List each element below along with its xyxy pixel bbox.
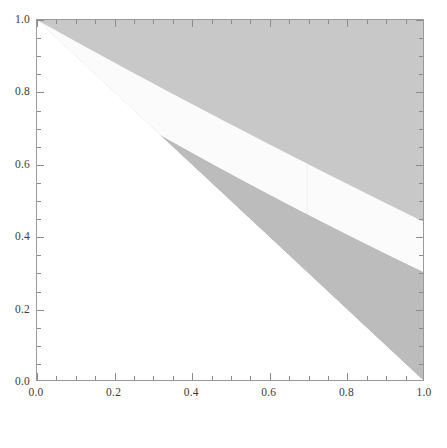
y-tick-right-0.4 <box>416 237 423 238</box>
x-tick-bottom-minor-0.95 <box>406 376 407 380</box>
y-tick-label-0.2: 0.2 <box>0 303 30 315</box>
x-tick-top-0.4 <box>192 20 193 27</box>
x-tick-top-0.1 <box>76 20 77 24</box>
y-tick-right-0.6 <box>416 165 423 166</box>
y-tick-right-minor-0.75 <box>419 111 423 112</box>
x-tick-top-minor-0.45 <box>212 20 213 24</box>
y-tick-left-0.7 <box>37 129 41 130</box>
y-tick-left-minor-0.75 <box>37 111 41 112</box>
x-tick-bottom-minor-0.15 <box>95 376 96 380</box>
y-tick-right-0.2 <box>416 310 423 311</box>
contour-canvas <box>37 20 423 380</box>
y-tick-label-0.8: 0.8 <box>0 85 30 97</box>
x-tick-label-0.8: 0.8 <box>339 386 354 398</box>
contour-figure: 0.00.20.40.60.81.0 0.00.20.40.60.81.0 <box>0 0 447 448</box>
y-tick-right-0.9 <box>419 56 423 57</box>
y-tick-left-minor-0.15 <box>37 328 41 329</box>
y-tick-left-0.5 <box>37 201 41 202</box>
y-tick-left-0.1 <box>37 346 41 347</box>
x-tick-bottom-0.2 <box>115 373 116 380</box>
y-tick-right-0.1 <box>419 346 423 347</box>
x-tick-label-1: 1.0 <box>417 386 432 398</box>
y-tick-left-minor-0.45 <box>37 219 41 220</box>
x-tick-label-0.4: 0.4 <box>184 386 199 398</box>
x-tick-bottom-minor-0.45 <box>212 376 213 380</box>
x-tick-bottom-0.6 <box>270 373 271 380</box>
y-tick-left-minor-0.65 <box>37 147 41 148</box>
y-tick-right-minor-0.65 <box>419 147 423 148</box>
y-tick-right-0.5 <box>419 201 423 202</box>
x-tick-top-0.7 <box>309 20 310 24</box>
y-tick-label-0: 0.0 <box>0 375 30 387</box>
x-tick-bottom-minor-0.65 <box>289 376 290 380</box>
y-tick-left-minor-0.95 <box>37 38 41 39</box>
y-tick-left-0.8 <box>37 92 44 93</box>
y-tick-right-minor-0.55 <box>419 183 423 184</box>
x-tick-bottom-0.8 <box>347 373 348 380</box>
x-tick-bottom-0 <box>37 373 38 380</box>
x-tick-top-0.5 <box>231 20 232 24</box>
plot-frame <box>36 19 424 381</box>
x-tick-top-minor-0.65 <box>289 20 290 24</box>
y-tick-left-minor-0.35 <box>37 255 41 256</box>
y-tick-right-minor-0.95 <box>419 38 423 39</box>
y-tick-right-0.3 <box>419 273 423 274</box>
y-tick-right-0.8 <box>416 92 423 93</box>
y-tick-label-0.4: 0.4 <box>0 230 30 242</box>
x-tick-bottom-minor-0.25 <box>134 376 135 380</box>
y-tick-left-0.2 <box>37 310 44 311</box>
y-tick-left-0.3 <box>37 273 41 274</box>
x-tick-label-0.6: 0.6 <box>261 386 276 398</box>
y-tick-left-minor-0.85 <box>37 74 41 75</box>
x-tick-top-0.6 <box>270 20 271 27</box>
x-tick-label-0.2: 0.2 <box>106 386 121 398</box>
x-tick-top-minor-0.15 <box>95 20 96 24</box>
x-tick-top-0.8 <box>347 20 348 27</box>
y-tick-left-minor-0.05 <box>37 364 41 365</box>
x-tick-bottom-minor-0.75 <box>328 376 329 380</box>
y-tick-left-0.4 <box>37 237 44 238</box>
x-tick-bottom-0.1 <box>76 376 77 380</box>
x-tick-top-minor-0.05 <box>56 20 57 24</box>
x-tick-bottom-minor-0.55 <box>250 376 251 380</box>
x-tick-top-minor-0.85 <box>367 20 368 24</box>
y-tick-left-1 <box>37 20 44 21</box>
y-tick-right-minor-0.45 <box>419 219 423 220</box>
y-tick-label-1: 1.0 <box>0 13 30 25</box>
y-tick-left-minor-0.55 <box>37 183 41 184</box>
x-tick-top-0.9 <box>386 20 387 24</box>
x-tick-top-0.2 <box>115 20 116 27</box>
y-tick-left-minor-0.25 <box>37 292 41 293</box>
y-tick-right-1 <box>416 20 423 21</box>
x-tick-bottom-minor-0.05 <box>56 376 57 380</box>
x-tick-bottom-0.9 <box>386 376 387 380</box>
y-tick-left-0.9 <box>37 56 41 57</box>
x-tick-bottom-minor-0.85 <box>367 376 368 380</box>
x-tick-top-minor-0.55 <box>250 20 251 24</box>
y-tick-right-minor-0.05 <box>419 364 423 365</box>
y-tick-right-minor-0.25 <box>419 292 423 293</box>
x-tick-top-minor-0.35 <box>173 20 174 24</box>
y-tick-right-minor-0.85 <box>419 74 423 75</box>
x-tick-top-minor-0.25 <box>134 20 135 24</box>
x-tick-bottom-0.3 <box>153 376 154 380</box>
x-tick-bottom-0.4 <box>192 373 193 380</box>
y-tick-label-0.6: 0.6 <box>0 158 30 170</box>
x-tick-bottom-minor-0.35 <box>173 376 174 380</box>
x-tick-top-minor-0.75 <box>328 20 329 24</box>
x-tick-top-0 <box>37 20 38 27</box>
y-tick-right-0.7 <box>419 129 423 130</box>
x-tick-bottom-0.7 <box>309 376 310 380</box>
y-tick-right-minor-0.35 <box>419 255 423 256</box>
y-tick-right-minor-0.15 <box>419 328 423 329</box>
x-tick-label-0: 0.0 <box>29 386 44 398</box>
x-tick-top-minor-0.95 <box>406 20 407 24</box>
x-tick-bottom-0.5 <box>231 376 232 380</box>
x-tick-top-0.3 <box>153 20 154 24</box>
y-tick-left-0.6 <box>37 165 44 166</box>
